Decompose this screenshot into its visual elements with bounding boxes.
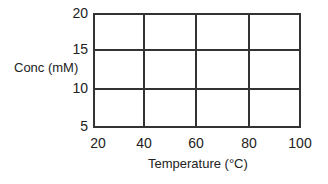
y-tick-5: 5	[58, 118, 88, 134]
x-axis-label: Temperature (°C)	[148, 156, 248, 171]
gridline-y-15	[93, 49, 301, 51]
y-tick-10: 10	[58, 80, 88, 96]
gridline-x-40	[143, 13, 145, 128]
y-tick-20: 20	[58, 5, 88, 21]
gridline-x-80	[248, 13, 250, 128]
x-tick-60: 60	[176, 135, 216, 151]
gridline-y-10	[93, 88, 301, 90]
x-tick-20: 20	[78, 135, 118, 151]
x-tick-80: 80	[229, 135, 269, 151]
x-tick-100: 100	[280, 135, 320, 151]
y-tick-15: 15	[58, 41, 88, 57]
plot-area	[93, 13, 301, 128]
y-axis-label: Conc (mM)	[14, 60, 78, 75]
x-tick-40: 40	[124, 135, 164, 151]
gridline-x-60	[195, 13, 197, 128]
